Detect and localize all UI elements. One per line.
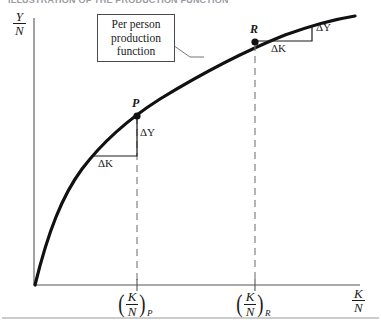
delta-y-label-r: ΔY xyxy=(316,21,331,33)
y-axis-label: Y N xyxy=(13,10,26,38)
x-tick-label-r: (KN)R xyxy=(235,289,271,319)
delta-y-label-p: ΔY xyxy=(140,126,155,138)
x-axis-numerator: K xyxy=(352,287,365,301)
slope-triangle-p xyxy=(94,117,137,156)
annotation-line-1: Per person xyxy=(98,18,174,32)
paren-open-p: ( xyxy=(118,289,124,319)
x-tick-r-subscript: R xyxy=(265,308,271,319)
annotation-leader-line xyxy=(170,43,204,57)
x-tick-p-denominator: N xyxy=(126,305,139,318)
delta-k-label-r: ΔK xyxy=(271,42,286,54)
x-tick-r-denominator: N xyxy=(244,305,257,318)
x-tick-label-p: (KN)P xyxy=(117,289,153,319)
annotation-box-per-person-production-function: Per person production function xyxy=(97,14,175,62)
production-function-figure: ILLUSTRATION OF THE PRODUCTION FUNCTION xyxy=(0,0,381,329)
point-p-marker xyxy=(133,112,140,119)
point-r-label: R xyxy=(250,22,258,37)
point-r-marker xyxy=(251,38,258,45)
annotation-line-3: function xyxy=(98,45,174,59)
annotation-line-2: production xyxy=(98,32,174,46)
production-function-curve xyxy=(35,16,355,285)
x-axis-label: K N xyxy=(352,287,365,315)
point-p-label: P xyxy=(132,96,139,111)
paren-open-r: ( xyxy=(236,289,242,319)
x-axis-denominator: N xyxy=(352,301,365,314)
y-axis-denominator: N xyxy=(13,24,26,37)
delta-k-label-p: ΔK xyxy=(98,157,113,169)
x-tick-p-subscript: P xyxy=(147,308,153,319)
y-axis-numerator: Y xyxy=(13,10,26,24)
paren-close-p: ) xyxy=(140,289,146,319)
x-tick-p-numerator: K xyxy=(126,290,139,304)
x-tick-r-numerator: K xyxy=(244,290,257,304)
figure-canvas xyxy=(0,0,381,329)
paren-close-r: ) xyxy=(258,289,264,319)
